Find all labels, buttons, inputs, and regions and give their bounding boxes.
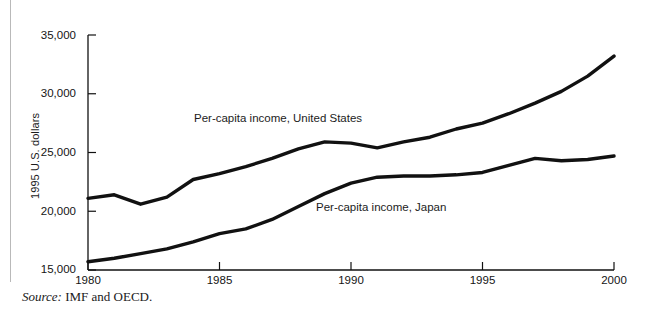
axis-lines <box>88 35 614 270</box>
data-series-group <box>88 56 614 262</box>
source-note: Source: IMF and OECD. <box>22 289 152 305</box>
series-annotation-japan: Per-capita income, Japan <box>316 201 446 213</box>
x-tick-label: 1980 <box>75 274 101 286</box>
x-tick-label: 1985 <box>207 274 233 286</box>
chart-plot-area <box>0 0 645 312</box>
x-tick-label: 1995 <box>470 274 496 286</box>
figure-container: 1995 U.S. dollars 35,000 30,000 25,000 2… <box>0 0 645 312</box>
x-tick-label: 1990 <box>338 274 364 286</box>
y-axis-ticks <box>88 35 96 270</box>
source-value: IMF and OECD. <box>62 289 152 304</box>
source-label: Source: <box>22 289 62 304</box>
x-axis-ticks <box>88 262 614 270</box>
series-annotation-united-states: Per-capita income, United States <box>194 112 362 124</box>
x-tick-label: 2000 <box>601 274 627 286</box>
